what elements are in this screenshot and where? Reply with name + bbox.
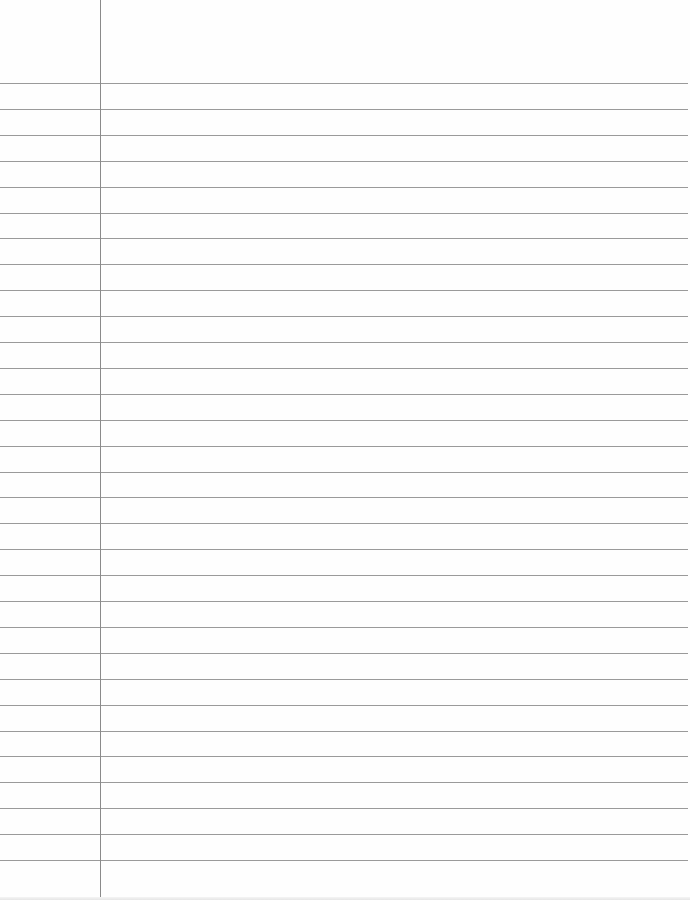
ruled-line [0,161,688,162]
ruled-line [0,834,688,835]
ruled-line [0,238,688,239]
ruled-line [0,627,688,628]
ruled-line [0,472,688,473]
lined-paper-page [0,0,690,900]
ruled-line [0,394,688,395]
ruled-line [0,342,688,343]
ruled-line [0,549,688,550]
ruled-line [0,187,688,188]
margin-line [100,0,101,897]
ruled-line [0,109,688,110]
ruled-line [0,213,688,214]
ruled-line [0,808,688,809]
ruled-line [0,497,688,498]
ruled-line [0,756,688,757]
ruled-line [0,446,688,447]
ruled-line [0,264,688,265]
ruled-line [0,679,688,680]
ruled-line [0,653,688,654]
ruled-line [0,705,688,706]
ruled-line [0,731,688,732]
ruled-line [0,523,688,524]
ruled-line [0,368,688,369]
ruled-line [0,316,688,317]
ruled-line [0,83,688,84]
ruled-line [0,782,688,783]
ruled-line [0,420,688,421]
ruled-line [0,601,688,602]
ruled-line [0,290,688,291]
ruled-line [0,860,688,861]
ruled-line [0,135,688,136]
ruled-line [0,575,688,576]
